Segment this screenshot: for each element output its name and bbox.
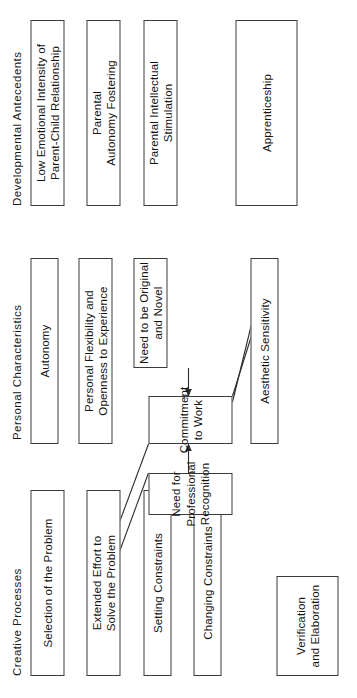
node-selection-of-the-problem[interactable]: Selection of the Problem	[30, 490, 64, 676]
node-need-to-be-original[interactable]: Need to be Original and Novel	[133, 258, 167, 368]
node-personal-flexibility[interactable]: Personal Flexibility and Openness to Exp…	[78, 258, 112, 444]
node-autonomy[interactable]: Autonomy	[30, 258, 58, 444]
figure-canvas: Creative Processes Personal Characterist…	[0, 0, 357, 698]
node-extended-effort[interactable]: Extended Effort to Solve the Problem	[86, 490, 120, 676]
node-need-for-professional-recognition[interactable]: Need for Professional Recognition	[148, 473, 232, 515]
column-header-personal-characteristics: Personal Characteristics	[10, 305, 22, 440]
node-parental-autonomy-fostering[interactable]: Parental Autonomy Fostering	[86, 20, 120, 206]
node-parental-intellectual-stimulation[interactable]: Parental Intellectual Stimulation	[143, 20, 177, 206]
node-commitment-to-work[interactable]: Commitment to Work	[148, 396, 232, 444]
node-apprenticeship[interactable]: Apprenticeship	[235, 20, 297, 206]
column-header-developmental-antecedents: Developmental Antecedents	[10, 52, 22, 206]
node-setting-constraints[interactable]: Setting Constraints	[143, 490, 171, 676]
node-aesthetic-sensitivity[interactable]: Aesthetic Sensitivity	[250, 258, 278, 444]
node-verification-and-elaboration-box[interactable]: Verification and Elaboration	[276, 576, 338, 676]
node-low-emotional-intensity[interactable]: Low Emotional Intensity of Parent-Child …	[30, 20, 64, 206]
column-header-creative-processes: Creative Processes	[10, 568, 22, 676]
